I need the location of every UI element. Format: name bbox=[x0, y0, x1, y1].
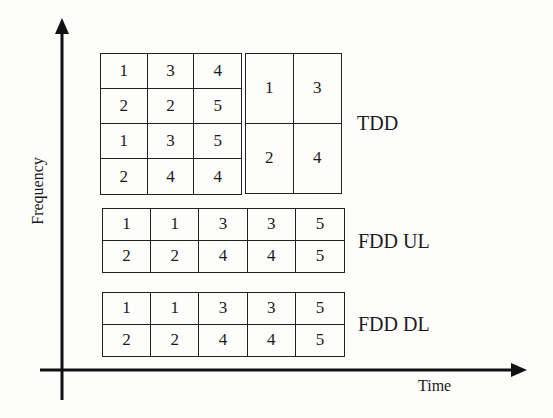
y-axis-label: Frequency bbox=[29, 151, 47, 231]
grid-cell: 1 bbox=[246, 54, 294, 124]
grid-cell: 3 bbox=[294, 54, 342, 124]
grid-cell: 2 bbox=[103, 325, 151, 357]
grid-cell: 5 bbox=[296, 209, 344, 241]
grid-cell: 2 bbox=[246, 124, 294, 194]
tdd-right-grid: 1324 bbox=[245, 53, 342, 194]
grid-cell: 1 bbox=[103, 209, 151, 241]
grid-cell: 4 bbox=[199, 241, 247, 273]
grid-cell: 1 bbox=[101, 124, 148, 159]
grid-cell: 2 bbox=[151, 241, 199, 273]
grid-cell: 3 bbox=[148, 54, 195, 89]
grid-cell: 5 bbox=[296, 325, 344, 357]
grid-cell: 4 bbox=[194, 54, 241, 89]
grid-cell: 2 bbox=[148, 89, 195, 124]
x-axis-label: Time bbox=[418, 377, 451, 395]
grid-cell: 5 bbox=[194, 89, 241, 124]
grid-cell: 2 bbox=[151, 325, 199, 357]
grid-cell: 2 bbox=[101, 159, 148, 194]
grid-cell: 1 bbox=[151, 209, 199, 241]
tdd-left-grid: 134225135244 bbox=[100, 53, 242, 195]
grid-cell: 3 bbox=[148, 124, 195, 159]
grid-cell: 5 bbox=[296, 241, 344, 273]
grid-cell: 1 bbox=[101, 54, 148, 89]
grid-cell: 2 bbox=[103, 241, 151, 273]
grid-cell: 4 bbox=[294, 124, 342, 194]
grid-cell: 3 bbox=[248, 293, 296, 325]
grid-cell: 4 bbox=[148, 159, 195, 194]
y-axis-arrow-icon bbox=[55, 18, 69, 34]
grid-cell: 3 bbox=[248, 209, 296, 241]
fdd-dl-label: FDD DL bbox=[358, 313, 430, 336]
grid-cell: 5 bbox=[194, 124, 241, 159]
x-axis-arrow-icon bbox=[511, 363, 527, 377]
grid-cell: 4 bbox=[199, 325, 247, 357]
fdd-dl-grid: 1133522445 bbox=[102, 292, 345, 357]
tdd-label: TDD bbox=[357, 112, 398, 135]
grid-cell: 5 bbox=[296, 293, 344, 325]
grid-cell: 2 bbox=[101, 89, 148, 124]
fdd-ul-label: FDD UL bbox=[358, 230, 430, 253]
grid-cell: 3 bbox=[199, 293, 247, 325]
grid-cell: 1 bbox=[151, 293, 199, 325]
fdd-ul-grid: 1133522445 bbox=[102, 208, 345, 273]
grid-cell: 3 bbox=[199, 209, 247, 241]
grid-cell: 4 bbox=[194, 159, 241, 194]
grid-cell: 1 bbox=[103, 293, 151, 325]
grid-cell: 4 bbox=[248, 241, 296, 273]
grid-cell: 4 bbox=[248, 325, 296, 357]
